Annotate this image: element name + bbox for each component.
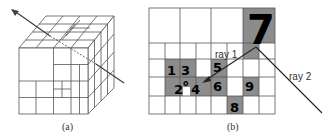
- cell-label-6: 6: [213, 79, 222, 94]
- cell-label-4: 4: [191, 82, 200, 97]
- arrowhead-icon: [11, 9, 19, 16]
- point-marker: o: [183, 79, 189, 88]
- cell-label-7: 7: [247, 7, 275, 53]
- figure-canvas: 1 3 5 7 2 o 4 6 9 8 ray 1 ray 2: [0, 0, 334, 140]
- caption-b: (b): [227, 121, 239, 132]
- caption-a: (a): [62, 121, 73, 132]
- ray-2-label: ray 2: [289, 71, 312, 82]
- cell-label-8: 8: [230, 100, 239, 115]
- cell-label-3: 3: [181, 63, 190, 78]
- cell-label-1: 1: [167, 63, 176, 78]
- cell-label-2: 2: [174, 82, 183, 97]
- ray-1-label: ray 1: [215, 49, 238, 60]
- octree-cube: [19, 16, 114, 114]
- cell-label-9: 9: [245, 79, 254, 94]
